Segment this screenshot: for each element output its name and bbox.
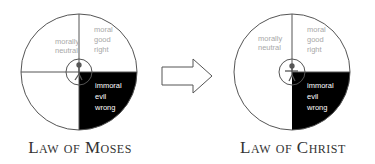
label-morally-neutral: morally neutral <box>55 37 81 55</box>
right-arrow-icon <box>162 59 212 93</box>
law-of-moses-wheel: morally neutral moral good right immoral… <box>21 14 137 130</box>
law-of-christ-wheel: morally neutral moral good right immoral… <box>234 14 350 130</box>
caption-law-of-christ: Law of Christ <box>213 138 373 158</box>
label-morally-neutral: morally neutral <box>258 34 284 52</box>
caption-law-of-moses: Law of Moses <box>0 138 160 158</box>
label-moral-good-right: moral good right <box>94 25 115 54</box>
label-moral-good-right: moral good right <box>307 25 328 54</box>
